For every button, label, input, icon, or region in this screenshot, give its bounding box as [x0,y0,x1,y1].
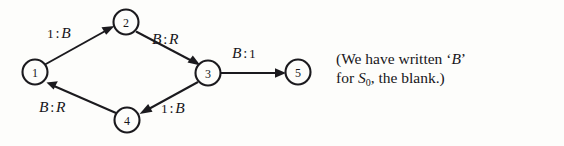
node-2-label: 2 [123,16,129,30]
edge-4-to-1-arrowhead [47,81,58,89]
edge-label-2-to-3-colon: : [162,31,169,47]
caption-line-1: (We have written ‘B’ [336,49,556,68]
edge-label-4-to-1-read: B [39,98,49,115]
node-4[interactable]: 4 [115,108,140,133]
caption-line-1-after: ’ [461,50,466,67]
edge-label-3-to-4-read: 1 [161,101,168,116]
edge-label-1-to-2-write: B [61,24,71,41]
edge-label-2-to-3-read: B [152,30,162,47]
edge-1-to-2-arrowhead [102,26,115,35]
node-5-label: 5 [295,66,301,80]
node-1-label: 1 [32,66,38,80]
edge-3-to-5 [221,68,286,78]
edge-label-2-to-3-write: R [169,30,179,47]
caption-symbol-s: S [358,69,366,86]
caption-line-1-before: (We have written ‘ [336,50,451,67]
node-3-label: 3 [205,67,211,81]
edge-label-4-to-1-write: R [56,98,66,115]
edge-label-4-to-1-colon: : [49,99,56,115]
edge-label-3-to-5-read: B [232,44,242,61]
node-3[interactable]: 3 [196,61,221,86]
caption-symbol-b: B [451,50,460,67]
edge-label-1-to-2: 1:B [47,24,71,42]
edge-3-to-5-arrowhead [275,68,286,78]
caption-line-2-after: , the blank.) [371,69,445,86]
caption-line-2-before: for [336,69,358,86]
caption-line-2: for S0, the blank.) [336,68,556,92]
node-4-label: 4 [124,114,130,128]
edge-label-2-to-3: B:R [152,30,179,48]
figure-caption: (We have written ‘B’ for S0, the blank.) [336,49,556,92]
edge-label-3-to-5-colon: : [242,45,249,61]
node-5[interactable]: 5 [286,60,311,85]
figure-canvas: 1 2 3 4 5 1:B B:R B:1 1:B B:R [0,0,564,146]
edge-label-3-to-4: 1:B [161,99,185,117]
edge-label-4-to-1: B:R [39,98,66,116]
edge-label-3-to-4-write: B [175,99,185,116]
edge-3-to-4-arrowhead [140,104,153,114]
node-1[interactable]: 1 [23,60,48,85]
edge-label-3-to-5: B:1 [232,44,256,62]
node-2[interactable]: 2 [114,10,139,35]
edge-label-1-to-2-read: 1 [47,26,54,41]
edge-label-3-to-5-write: 1 [249,46,256,61]
